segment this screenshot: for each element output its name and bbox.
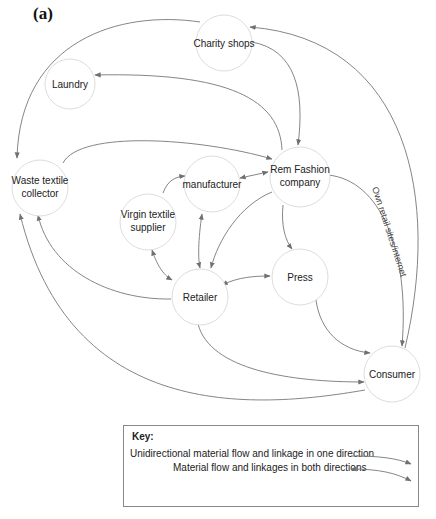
edge-rem-to-press [282,205,292,249]
node-virgin-textile-supplier: Virgin textile supplier [120,194,176,250]
node-manufacturer: manufacturer [183,156,243,212]
legend-box: Key: Unidirectional material flow and li… [123,425,419,507]
svg-text:Laundry: Laundry [52,79,88,90]
node-retailer: Retailer [172,269,228,325]
svg-text:Waste textile: Waste textile [12,175,69,186]
edge-charity-to-waste [17,20,200,158]
edge-manufacturer-rem [240,172,268,178]
svg-text:Consumer: Consumer [369,369,416,380]
legend-arrows [124,426,420,508]
node-press: Press [272,249,328,305]
node-charity-shops: Charity shops [193,15,254,71]
edge-charity-to-rem [252,42,300,145]
legend-bidirectional-arrow [351,469,411,481]
legend-unidirectional-arrow [352,456,411,464]
edge-manufacturer-retailer [199,214,202,268]
edge-rem-to-consumer [328,175,403,346]
nodes: Charity shops Laundry Waste textile coll… [12,15,420,402]
svg-text:Virgin textile: Virgin textile [121,209,176,220]
svg-text:Press: Press [287,272,313,283]
edge-label-own-retail: Own retail sites/internet [370,186,409,279]
edge-retailer-to-consumer [198,324,364,382]
svg-text:manufacturer: manufacturer [183,179,243,190]
svg-text:company: company [280,177,321,188]
svg-text:Retailer: Retailer [183,292,218,303]
node-laundry: Laundry [45,59,95,109]
svg-text:Rem Fashion: Rem Fashion [270,164,329,175]
node-rem-fashion-company: Rem Fashion company [270,147,330,207]
edge-waste-to-rem [63,141,272,163]
svg-text:collector: collector [21,188,59,199]
edge-press-to-consumer [316,300,370,353]
node-consumer: Consumer [364,346,420,402]
svg-text:Charity shops: Charity shops [193,38,254,49]
svg-text:supplier: supplier [130,222,166,233]
edge-rem-to-laundry [95,75,282,150]
edge-retailer-press [222,276,270,285]
edge-virgin-retailer [152,250,172,280]
node-waste-textile-collector: Waste textile collector [12,160,69,216]
